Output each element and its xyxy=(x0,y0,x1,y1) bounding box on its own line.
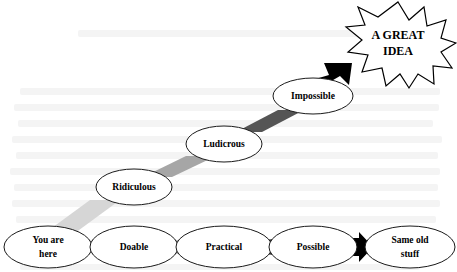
bottom-node-label-practical: Practical xyxy=(206,242,243,252)
burst-label-line1: A GREAT xyxy=(372,28,425,42)
stair-node-ridiculous[interactable]: Ridiculous xyxy=(96,169,172,205)
bottom-node-label-same-old-stuff-line2: stuff xyxy=(401,249,420,259)
diagram-canvas: A GREAT IDEA Ridiculous Ludicrous Imposs… xyxy=(0,0,457,272)
stair-node-ludicrous[interactable]: Ludicrous xyxy=(186,126,262,162)
stair-node-impossible[interactable]: Impossible xyxy=(273,78,353,114)
bottom-node-label-doable: Doable xyxy=(120,242,149,252)
ellipse-shape[interactable] xyxy=(365,226,455,268)
bottom-node-label-you-are-here-line2: here xyxy=(39,249,57,259)
bottom-node-label-you-are-here-line1: You are xyxy=(32,235,63,245)
stair-node-label-impossible: Impossible xyxy=(291,91,335,101)
idea-progression-diagram: A GREAT IDEA Ridiculous Ludicrous Imposs… xyxy=(0,0,457,272)
a-great-idea-burst: A GREAT IDEA xyxy=(346,2,456,88)
stair-node-label-ridiculous: Ridiculous xyxy=(112,182,156,192)
bottom-node-possible[interactable]: Possible xyxy=(269,226,357,268)
stair-node-label-ludicrous: Ludicrous xyxy=(203,139,245,149)
bottom-node-doable[interactable]: Doable xyxy=(90,226,178,268)
ellipse-shape[interactable] xyxy=(4,226,92,268)
bottom-node-same-old-stuff[interactable]: Same old stuff xyxy=(365,226,455,268)
bottom-node-you-are-here[interactable]: You are here xyxy=(4,226,92,268)
stair-connector-group xyxy=(45,110,304,233)
bottom-node-label-possible: Possible xyxy=(297,242,330,252)
connector-ludicrous-to-impossible xyxy=(236,110,304,132)
burst-label-line2: IDEA xyxy=(383,44,413,58)
bottom-node-label-same-old-stuff-line1: Same old xyxy=(391,235,429,245)
bottom-node-practical[interactable]: Practical xyxy=(176,226,272,268)
